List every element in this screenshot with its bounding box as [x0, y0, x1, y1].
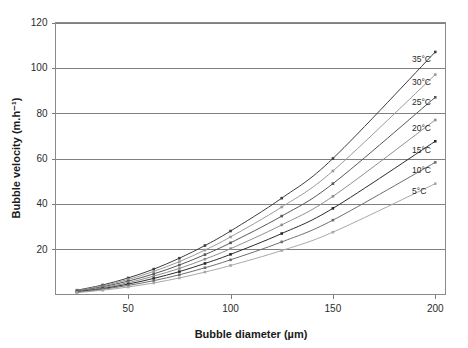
data-point: [280, 215, 283, 218]
data-point: [152, 277, 155, 280]
data-point: [152, 273, 155, 276]
data-point: [434, 119, 437, 122]
data-point: [152, 279, 155, 282]
x-tick-label-50: 50: [123, 303, 135, 314]
legend-label-25C: 25°C: [412, 97, 431, 107]
data-point: [178, 273, 181, 276]
data-point: [332, 207, 335, 210]
data-point: [152, 268, 155, 271]
data-point: [204, 253, 207, 256]
data-point: [204, 271, 207, 274]
chart-svg: 20406080100120 50100150200 35°C30°C25°C2…: [0, 0, 468, 348]
data-point: [204, 262, 207, 265]
y-tick-label-40: 40: [36, 198, 48, 209]
data-point: [178, 264, 181, 267]
data-point: [127, 286, 130, 289]
data-point: [280, 224, 283, 227]
data-point: [332, 182, 335, 185]
legend-label-30C: 30°C: [412, 77, 431, 87]
data-point: [280, 232, 283, 235]
data-point: [434, 182, 437, 185]
data-point: [101, 289, 104, 292]
data-point: [76, 291, 79, 294]
legend-label-35C: 35°C: [412, 54, 431, 64]
legend-label-5C: 5°C: [412, 186, 426, 196]
data-point: [332, 219, 335, 222]
data-point: [280, 241, 283, 244]
data-point: [204, 249, 207, 252]
data-point: [152, 270, 155, 273]
data-point: [204, 244, 207, 247]
data-point: [434, 161, 437, 164]
data-point: [178, 270, 181, 273]
data-point: [178, 267, 181, 270]
data-point: [178, 277, 181, 280]
y-tick-label-100: 100: [31, 62, 48, 73]
y-tick-label-20: 20: [36, 244, 48, 255]
data-point: [178, 260, 181, 263]
data-point: [280, 206, 283, 209]
data-point: [229, 253, 232, 256]
y-tick-label-60: 60: [36, 153, 48, 164]
data-point: [178, 257, 181, 260]
data-point: [204, 266, 207, 269]
data-point: [280, 197, 283, 200]
y-axis-title: Bubble velocity (m.h⁻¹): [10, 97, 22, 218]
y-tick-label-80: 80: [36, 108, 48, 119]
chart-background: [0, 0, 468, 348]
legend-label-20C: 20°C: [412, 123, 431, 133]
legend-label-15C: 15°C: [412, 145, 431, 155]
data-point: [332, 231, 335, 234]
x-axis-title: Bubble diameter (µm): [195, 328, 308, 340]
data-point: [332, 157, 335, 160]
data-point: [434, 96, 437, 99]
data-point: [229, 242, 232, 245]
data-point: [280, 249, 283, 252]
data-point: [204, 258, 207, 261]
x-tick-label-200: 200: [427, 303, 444, 314]
y-tick-label-120: 120: [31, 17, 48, 28]
data-point: [229, 247, 232, 250]
data-point: [434, 51, 437, 54]
data-point: [332, 170, 335, 173]
data-point: [434, 73, 437, 76]
data-point: [332, 195, 335, 198]
legend-label-10C: 10°C: [412, 165, 431, 175]
x-tick-label-100: 100: [222, 303, 239, 314]
data-point: [229, 230, 232, 233]
data-point: [229, 259, 232, 262]
data-point: [229, 264, 232, 267]
data-point: [152, 282, 155, 285]
bubble-velocity-chart: 20406080100120 50100150200 35°C30°C25°C2…: [0, 0, 468, 348]
x-tick-label-150: 150: [325, 303, 342, 314]
data-point: [434, 140, 437, 143]
data-point: [152, 275, 155, 278]
data-point: [229, 236, 232, 239]
